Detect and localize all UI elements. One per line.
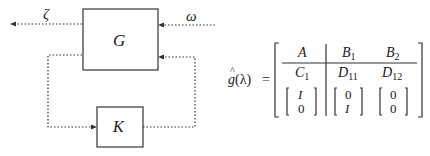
vector-0-top: I: [298, 88, 302, 101]
inner-bracket-left: [287, 88, 289, 115]
inner-bracket-right: [360, 88, 362, 115]
equals-sign: =: [262, 73, 270, 87]
feedback-output-line: [48, 55, 93, 127]
arrow-left-icon: [10, 22, 16, 27]
vector-0-bottom: 0: [298, 102, 305, 115]
block-diagram: [0, 0, 430, 156]
g-hat-symbol: g: [228, 72, 235, 87]
inner-bracket-left: [335, 88, 337, 115]
signal-label-zeta: ζ: [43, 7, 49, 22]
arrow-right-icon: [91, 125, 97, 130]
matrix-left-bracket: [275, 43, 279, 117]
matrix-cell-d12: D12: [382, 66, 402, 82]
vector-1-bottom: I: [345, 102, 349, 115]
feedback-input-line: [143, 57, 195, 127]
block-k-label: K: [113, 119, 124, 135]
lhs-argument: (λ): [235, 72, 251, 87]
matrix-cell-c1: C1: [295, 66, 309, 82]
vector-2-bottom: 0: [390, 102, 397, 115]
matrix-cell-a: A: [298, 46, 307, 60]
matrix-right-bracket: [418, 43, 422, 117]
vector-2-top: 0: [390, 88, 397, 101]
inner-bracket-left: [380, 88, 382, 115]
equation-lhs: g(λ): [228, 73, 251, 87]
matrix-cell-b2: B2: [386, 46, 400, 62]
matrix-cell-b1: B1: [342, 46, 356, 62]
vector-1-top: 0: [345, 88, 352, 101]
arrow-left-icon: [158, 23, 164, 28]
inner-bracket-right: [405, 88, 407, 115]
matrix-cell-d11: D11: [338, 66, 358, 82]
arrow-left-icon: [158, 55, 164, 60]
inner-bracket-right: [314, 88, 316, 115]
block-g-label: G: [113, 32, 125, 49]
signal-label-omega: ω: [186, 9, 197, 24]
